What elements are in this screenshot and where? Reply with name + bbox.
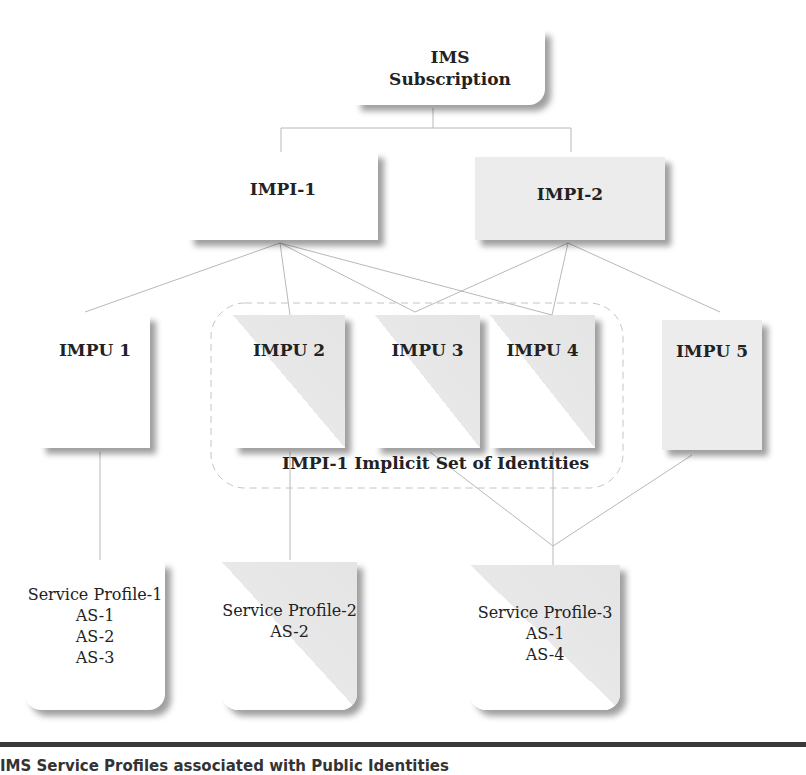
service-profile-3-title: Service Profile-3: [478, 602, 613, 623]
impu-5-label: IMPU 5: [676, 340, 748, 362]
impi-1-box: IMPI-1: [188, 152, 378, 240]
ims-subscription-line1: IMS: [430, 46, 469, 68]
impu-1-label: IMPU 1: [59, 339, 131, 361]
service-profile-1-box: Service Profile-1 AS-1 AS-2 AS-3: [25, 562, 165, 710]
impi-2-box: IMPI-2: [475, 157, 665, 240]
impu-5-box: IMPU 5: [662, 320, 762, 450]
impu-2-box: IMPU 2: [233, 315, 345, 448]
impu-1-box: IMPU 1: [40, 315, 150, 448]
impi-2-label: IMPI-2: [537, 183, 603, 205]
impu-3-label: IMPU 3: [391, 339, 463, 361]
service-profile-2-title: Service Profile-2: [222, 600, 357, 621]
service-profile-1-as: AS-3: [76, 647, 115, 668]
ims-subscription-box: IMS Subscription: [355, 30, 545, 105]
implicit-set-label: IMPI-1 Implicit Set of Identities: [282, 453, 589, 473]
service-profile-2-as: AS-2: [270, 621, 309, 642]
service-profile-3-as: AS-4: [526, 644, 565, 665]
service-profile-1-as: AS-1: [76, 605, 115, 626]
impu-2-label: IMPU 2: [253, 339, 325, 361]
service-profile-1-as: AS-2: [76, 626, 115, 647]
ims-subscription-line2: Subscription: [389, 68, 511, 90]
impi-1-label: IMPI-1: [250, 178, 316, 200]
service-profile-3-as: AS-1: [526, 623, 565, 644]
impu-3-box: IMPU 3: [375, 315, 480, 448]
service-profile-1-title: Service Profile-1: [28, 584, 163, 605]
impu-4-label: IMPU 4: [506, 339, 578, 361]
service-profile-3-box: Service Profile-3 AS-1 AS-4: [470, 565, 620, 710]
caption-divider: [0, 742, 806, 747]
service-profile-2-box: Service Profile-2 AS-2: [222, 562, 357, 710]
figure-caption: IMS Service Profiles associated with Pub…: [0, 757, 449, 775]
impu-4-box: IMPU 4: [490, 315, 595, 448]
